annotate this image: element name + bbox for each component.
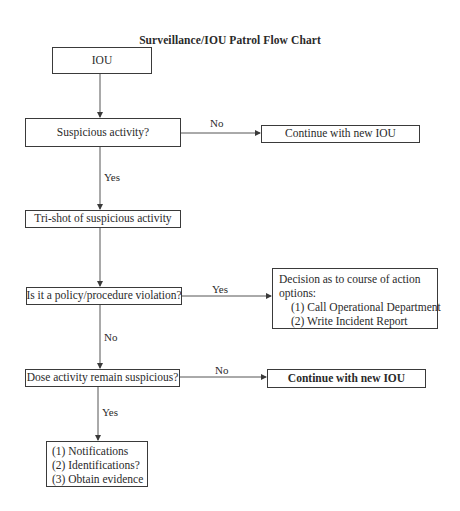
connector-lines	[0, 0, 460, 511]
final-action-1: (1) Notifications	[52, 444, 142, 458]
edge-label-policy-no: No	[104, 331, 117, 343]
edge-label-suspicious-yes: Yes	[104, 171, 120, 183]
node-suspicious-activity: Suspicious activity?	[25, 118, 181, 147]
node-policy-violation: Is it a policy/procedure violation?	[26, 287, 182, 305]
decision-option-1: (1) Call Operational Department	[279, 300, 431, 314]
decision-option-2: (2) Write Incident Report	[279, 314, 431, 328]
edge-label-policy-yes: Yes	[212, 283, 228, 295]
edge-label-suspicious-no: No	[210, 117, 223, 129]
edge-label-remain-yes: Yes	[102, 406, 118, 418]
node-remain-suspicious-label: Dose activity remain suspicious?	[27, 372, 179, 384]
node-iou-label: IOU	[92, 55, 112, 67]
final-action-2: (2) Identifications?	[52, 458, 142, 472]
node-tri-shot-label: Tri-shot of suspicious activity	[34, 213, 171, 225]
node-suspicious-activity-label: Suspicious activity?	[57, 127, 149, 139]
decision-heading-line2: options:	[279, 286, 431, 300]
edge-label-remain-no: No	[215, 364, 228, 376]
node-final-actions: (1) Notifications (2) Identifications? (…	[46, 441, 148, 487]
node-remain-suspicious: Dose activity remain suspicious?	[25, 369, 180, 387]
node-continue-new-iou-1-label: Continue with new IOU	[285, 128, 396, 140]
node-continue-new-iou-2: Continue with new IOU	[267, 369, 426, 388]
final-action-3: (3) Obtain evidence	[52, 472, 142, 486]
node-policy-violation-label: Is it a policy/procedure violation?	[26, 290, 181, 302]
node-continue-new-iou-2-label: Continue with new IOU	[288, 373, 405, 385]
node-iou: IOU	[52, 47, 152, 74]
node-tri-shot: Tri-shot of suspicious activity	[25, 210, 181, 228]
node-decision-options: Decision as to course of action options:…	[272, 268, 438, 329]
node-continue-new-iou-1: Continue with new IOU	[261, 125, 420, 143]
decision-heading-line1: Decision as to course of action	[279, 272, 431, 286]
